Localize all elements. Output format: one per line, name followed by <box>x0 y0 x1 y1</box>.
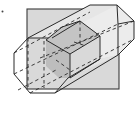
figure-label-dot <box>2 11 4 13</box>
prism-plane-diagram <box>0 0 136 116</box>
